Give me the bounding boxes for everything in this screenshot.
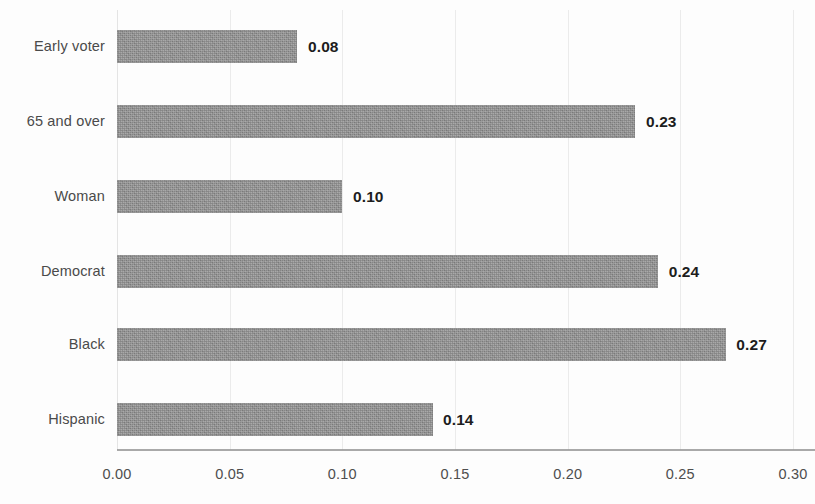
gridline-0.15 xyxy=(455,10,456,450)
xtick-0.25: 0.25 xyxy=(666,466,695,482)
xtick-0.15: 0.15 xyxy=(440,466,469,482)
category-label-hispanic: Hispanic xyxy=(0,411,105,427)
bar-row: 0.08 xyxy=(117,30,793,63)
gridline-0.25 xyxy=(680,10,681,450)
bar-row: 0.23 xyxy=(117,105,793,138)
bar-woman[interactable] xyxy=(117,180,342,213)
bar-chart: 0.08 0.23 0.10 0.24 0.27 0.14 Early vote… xyxy=(0,0,815,504)
xtick-0.30: 0.30 xyxy=(778,466,807,482)
bar-row: 0.14 xyxy=(117,403,793,436)
category-label-democrat: Democrat xyxy=(0,263,105,279)
bar-row: 0.27 xyxy=(117,328,793,361)
bar-democrat[interactable] xyxy=(117,255,658,288)
bar-65-and-over[interactable] xyxy=(117,105,635,138)
bar-black[interactable] xyxy=(117,328,726,361)
gridline-0.10 xyxy=(342,10,343,450)
category-label-black: Black xyxy=(0,336,105,352)
gridline-0.30 xyxy=(793,10,794,450)
x-axis-line xyxy=(117,449,815,451)
xtick-0.20: 0.20 xyxy=(553,466,582,482)
bar-value-black: 0.27 xyxy=(736,336,767,354)
bar-value-65-and-over: 0.23 xyxy=(646,113,677,131)
xtick-0.10: 0.10 xyxy=(328,466,357,482)
bar-row: 0.24 xyxy=(117,255,793,288)
xtick-0.00: 0.00 xyxy=(102,466,131,482)
bar-hispanic[interactable] xyxy=(117,403,433,436)
xtick-0.05: 0.05 xyxy=(215,466,244,482)
category-label-woman: Woman xyxy=(0,188,105,204)
bar-value-early-voter: 0.08 xyxy=(308,38,339,56)
gridline-0.00 xyxy=(117,10,118,450)
x-axis-tick-labels: 0.00 0.05 0.10 0.15 0.20 0.25 0.30 xyxy=(0,466,815,496)
gridline-0.20 xyxy=(568,10,569,450)
gridline-0.05 xyxy=(230,10,231,450)
category-axis: Early voter 65 and over Woman Democrat B… xyxy=(0,10,105,450)
category-label-65-and-over: 65 and over xyxy=(0,113,105,129)
plot-area: 0.08 0.23 0.10 0.24 0.27 0.14 xyxy=(117,10,793,450)
bar-value-democrat: 0.24 xyxy=(669,263,700,281)
bar-row: 0.10 xyxy=(117,180,793,213)
bar-early-voter[interactable] xyxy=(117,30,297,63)
bar-value-woman: 0.10 xyxy=(353,188,384,206)
category-label-early-voter: Early voter xyxy=(0,38,105,54)
bar-value-hispanic: 0.14 xyxy=(443,411,474,429)
